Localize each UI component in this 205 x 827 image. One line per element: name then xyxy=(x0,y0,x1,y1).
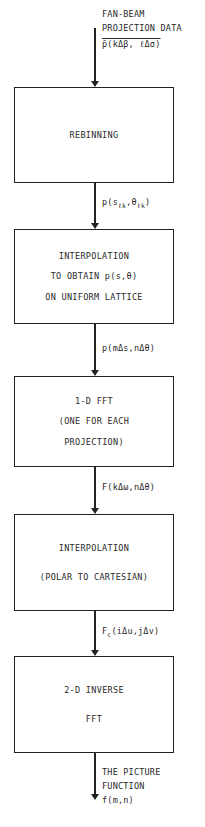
step-text: INTERPOLATION xyxy=(59,252,129,261)
step-text: 1-D FFT xyxy=(75,397,113,406)
edge-arrow-shaft xyxy=(94,183,96,223)
step-fft-1d: 1-D FFT (ONE FOR EACH PROJECTION) xyxy=(14,376,174,467)
edge-arrow-shaft xyxy=(94,324,96,370)
input-arrow-shaft xyxy=(94,28,96,82)
output-formula: f(m,n) xyxy=(102,796,134,805)
step-text: 2-D INVERSE xyxy=(64,686,124,695)
edge-arrow-shaft xyxy=(94,467,96,508)
edge-arrow-shaft xyxy=(94,611,96,650)
step-text: INTERPOLATION xyxy=(59,544,129,553)
edge-label-1: p(sℓk,θℓk) xyxy=(102,198,150,210)
edge-label-3: F(kΔω,nΔθ) xyxy=(102,483,155,492)
step-text: ON UNIFORM LATTICE xyxy=(45,293,143,302)
input-formula: p̄(kΔβ, ℓΔσ) xyxy=(102,40,160,49)
arrowhead-icon xyxy=(91,794,99,800)
step-text: REBINNING xyxy=(70,131,119,140)
input-label-line-2: PROJECTION DATA xyxy=(102,24,182,33)
step-text: TO OBTAIN p(s,θ) xyxy=(51,272,138,281)
output-label-line-2: FUNCTION xyxy=(102,782,145,791)
step-rebinning: REBINNING xyxy=(14,87,174,183)
output-label-line-1: THE PICTURE xyxy=(102,768,161,777)
step-text: (POLAR TO CARTESIAN) xyxy=(40,573,148,582)
edge-label-4: Fc(iΔu,jΔv) xyxy=(102,627,159,639)
step-inverse-fft-2d: 2-D INVERSE FFT xyxy=(14,656,174,753)
step-text: (ONE FOR EACH xyxy=(59,417,129,426)
output-arrow-shaft xyxy=(94,753,96,795)
step-interpolation-polar: INTERPOLATION (POLAR TO CARTESIAN) xyxy=(14,514,174,611)
step-text: FFT xyxy=(86,715,102,724)
step-text: PROJECTION) xyxy=(64,438,124,447)
input-label-line-1: FAN-BEAM xyxy=(102,10,145,19)
edge-label-2: p(mΔs,nΔθ) xyxy=(102,344,155,353)
step-interpolation-uniform: INTERPOLATION TO OBTAIN p(s,θ) ON UNIFOR… xyxy=(14,229,174,324)
